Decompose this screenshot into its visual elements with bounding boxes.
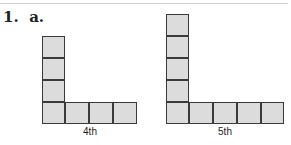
figure-5th: 5th — [0, 0, 291, 145]
square — [166, 102, 189, 124]
square — [189, 102, 213, 124]
square — [166, 36, 189, 58]
square — [166, 14, 189, 36]
square — [166, 80, 189, 102]
square — [166, 58, 189, 80]
figure-caption: 5th — [205, 126, 245, 137]
square — [261, 102, 284, 124]
square — [213, 102, 237, 124]
square — [237, 102, 261, 124]
